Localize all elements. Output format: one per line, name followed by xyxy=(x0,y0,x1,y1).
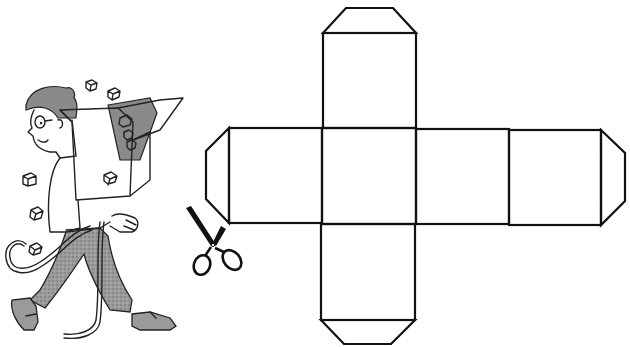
far-right-face xyxy=(509,130,601,225)
worksheet-figure: Cube net with glue tabs xyxy=(0,0,630,347)
cube-net xyxy=(206,8,625,344)
hair xyxy=(26,87,77,118)
right-middle-face xyxy=(416,129,509,224)
cardboard-box xyxy=(60,98,183,200)
bottom-glue-tab xyxy=(321,320,415,344)
figure-canvas xyxy=(0,0,630,347)
trousers xyxy=(30,228,132,312)
center-face xyxy=(322,128,416,224)
top-face xyxy=(323,33,416,128)
left-face xyxy=(229,128,322,223)
top-glue-tab xyxy=(323,8,416,33)
left-glue-tab xyxy=(206,128,229,223)
scissors-icon xyxy=(186,206,245,277)
right-glue-tab xyxy=(601,130,625,225)
man-carrying-box-illustration xyxy=(6,80,183,338)
figure-caption: Cube net with glue tabs xyxy=(0,0,1,1)
right-shoe xyxy=(132,312,176,330)
bottom-face xyxy=(321,224,415,320)
